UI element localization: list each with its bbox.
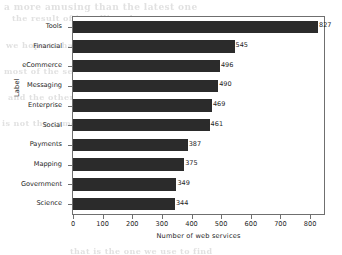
y-axis-tick-mark <box>68 86 72 87</box>
bar-row: 545 <box>73 37 324 57</box>
x-axis-tick-label: 300 <box>156 220 169 228</box>
bars-layer: 827545496490469461387375349344 <box>73 17 324 214</box>
x-axis-ticks: 0100200300400500600700800 <box>73 215 324 245</box>
y-axis-tick-label: Social <box>42 116 62 136</box>
y-axis-tick-mark <box>68 66 72 67</box>
x-axis-tick-label: 600 <box>245 220 258 228</box>
y-axis-tick-label: Government <box>21 175 62 195</box>
bar-row: 349 <box>73 175 324 195</box>
bar <box>73 178 176 190</box>
bar-value-label: 387 <box>189 138 201 151</box>
y-axis-tick-mark <box>68 145 72 146</box>
x-axis-tick-mark <box>162 215 163 219</box>
x-axis-tick-mark <box>221 215 222 219</box>
y-axis-tick-mark <box>68 184 72 185</box>
bar-row: 461 <box>73 116 324 136</box>
bar <box>73 119 210 131</box>
x-axis-tick-mark <box>192 215 193 219</box>
bar <box>73 60 220 72</box>
x-axis-tick-label: 100 <box>96 220 109 228</box>
bar-value-label: 490 <box>219 78 231 91</box>
y-axis-tick-label: Enterprise <box>28 96 62 116</box>
bar-value-label: 827 <box>319 19 331 32</box>
y-axis-tick-label: Tools <box>46 17 62 37</box>
y-axis-tick-mark <box>68 204 72 205</box>
x-axis-tick-mark <box>73 215 74 219</box>
bar-value-label: 344 <box>176 197 188 210</box>
y-axis-tick-label: Messaging <box>27 76 62 96</box>
bar-row: 490 <box>73 76 324 96</box>
y-axis-tick-mark <box>68 47 72 48</box>
bar-row: 496 <box>73 56 324 76</box>
x-axis-tick-label: 200 <box>126 220 139 228</box>
x-axis-tick-label: 400 <box>185 220 198 228</box>
x-axis-tick-mark <box>132 215 133 219</box>
x-axis-tick-mark <box>310 215 311 219</box>
bar-value-label: 469 <box>213 98 225 111</box>
x-axis-tick-mark <box>103 215 104 219</box>
y-axis-tick-mark <box>68 27 72 28</box>
bar <box>73 99 212 111</box>
bar <box>73 198 175 210</box>
bar-row: 387 <box>73 135 324 155</box>
y-axis-tick-label: Mapping <box>34 155 62 175</box>
x-axis-tick-mark <box>251 215 252 219</box>
x-axis-title: Number of web services <box>72 232 325 240</box>
y-axis-tick-mark <box>68 106 72 107</box>
bar-row: 375 <box>73 155 324 175</box>
y-axis-tick-labels: ToolsFinancialeCommerceMessagingEnterpri… <box>0 17 68 214</box>
y-axis-tick-mark <box>68 125 72 126</box>
bar <box>73 40 235 52</box>
bar <box>73 158 184 170</box>
bar-value-label: 545 <box>236 39 248 52</box>
bar-chart-figure: Label ToolsFinancialeCommerceMessagingEn… <box>0 0 342 255</box>
bar <box>73 80 218 92</box>
bar-value-label: 461 <box>211 118 223 131</box>
y-axis-tick-label: Science <box>36 194 62 214</box>
y-axis-tick-label: Payments <box>30 135 62 155</box>
x-axis-tick-label: 500 <box>215 220 228 228</box>
x-axis-tick-label: 0 <box>71 220 75 228</box>
bar-value-label: 496 <box>221 59 233 72</box>
bar-row: 827 <box>73 17 324 37</box>
y-axis-tick-label: eCommerce <box>22 56 62 76</box>
y-axis-tick-mark <box>68 165 72 166</box>
bar-value-label: 349 <box>177 177 189 190</box>
bar <box>73 139 188 151</box>
bar-row: 469 <box>73 96 324 116</box>
y-axis-tick-label: Financial <box>33 37 62 57</box>
bar <box>73 21 318 33</box>
bar-row: 344 <box>73 194 324 214</box>
x-axis-tick-label: 800 <box>304 220 317 228</box>
bar-value-label: 375 <box>185 157 197 170</box>
x-axis-tick-mark <box>280 215 281 219</box>
x-axis-tick-label: 700 <box>274 220 287 228</box>
